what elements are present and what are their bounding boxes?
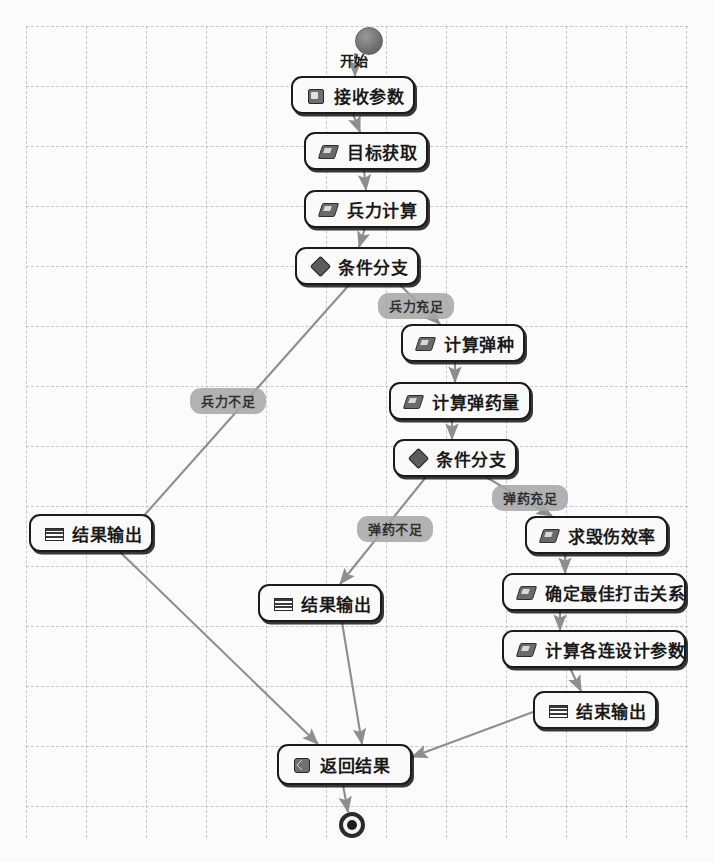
gear-icon — [517, 583, 536, 602]
flow-node-label: 计算弹药量 — [432, 389, 520, 414]
diamond-icon — [408, 449, 427, 468]
grid-line-vertical — [506, 26, 507, 838]
gear-icon — [319, 200, 338, 219]
end-node[interactable] — [339, 812, 365, 838]
grid-line-horizontal — [26, 686, 688, 687]
grid-line-horizontal — [26, 386, 688, 387]
flow-node-label: 条件分支 — [436, 446, 506, 471]
grid-line-horizontal — [26, 326, 688, 327]
grid-line-vertical — [206, 26, 207, 838]
gear-icon — [404, 392, 423, 411]
edge-label-e_l1: 兵力充足 — [378, 293, 454, 319]
edge-label-e_l2: 兵力不足 — [190, 388, 266, 414]
grid-line-horizontal — [26, 626, 688, 627]
edge-n10-to-n14 — [342, 622, 362, 744]
edge-layer — [0, 0, 714, 862]
flow-node-label: 求毁伤效率 — [568, 523, 656, 548]
flow-node-n5[interactable]: 计算弹种 — [401, 324, 525, 362]
edge-n2-to-n3 — [364, 170, 366, 190]
flow-node-n12[interactable]: 计算各连设计参数 — [502, 630, 686, 668]
grid-line-horizontal — [26, 446, 688, 447]
flow-node-label: 条件分支 — [338, 254, 408, 279]
flow-node-label: 确定最佳打击关系 — [545, 580, 685, 605]
flow-node-n9[interactable]: 求毁伤效率 — [525, 516, 668, 554]
flowchart-canvas: 开始 接收参数目标获取兵力计算条件分支计算弹种计算弹药量条件分支结果输出求毁伤效… — [0, 0, 714, 862]
edge-n14-to-end — [343, 785, 348, 812]
grid-line-horizontal — [26, 566, 688, 567]
flow-node-label: 结束输出 — [576, 698, 646, 723]
return-icon — [292, 755, 311, 774]
grid-line-vertical — [86, 26, 87, 838]
gear-icon — [416, 334, 435, 353]
edge-label-e_l4: 弹药不足 — [357, 516, 433, 542]
flow-node-label: 计算弹种 — [444, 331, 514, 356]
grid-line-vertical — [266, 26, 267, 838]
flow-node-label: 结果输出 — [72, 521, 142, 546]
edge-n12-to-n13 — [570, 668, 581, 691]
grid-line-vertical — [686, 26, 687, 838]
edge-n8-to-n14 — [120, 552, 318, 744]
flow-node-n11[interactable]: 确定最佳打击关系 — [502, 573, 686, 611]
flow-node-n6[interactable]: 计算弹药量 — [389, 382, 531, 420]
gear-icon — [517, 640, 536, 659]
edge-n3-to-n4 — [359, 228, 365, 247]
output-list-icon — [44, 524, 63, 543]
grid-line-horizontal — [26, 506, 688, 507]
flow-node-n2[interactable]: 目标获取 — [304, 132, 428, 170]
flow-node-label: 兵力计算 — [347, 197, 417, 222]
flow-node-n1[interactable]: 接收参数 — [291, 76, 415, 114]
flow-node-label: 计算各连设计参数 — [545, 637, 685, 662]
flow-node-n8[interactable]: 结果输出 — [29, 514, 153, 552]
flow-node-label: 结果输出 — [301, 591, 371, 616]
gear-icon — [319, 142, 338, 161]
receive-params-icon — [306, 86, 325, 105]
flow-node-n13[interactable]: 结束输出 — [533, 691, 657, 729]
grid-line-vertical — [146, 26, 147, 838]
gear-icon — [540, 526, 559, 545]
edge-n1-to-n2 — [353, 114, 360, 132]
edge-n13-to-n14 — [412, 712, 533, 757]
edge-label-e_l3: 弹药充足 — [492, 485, 568, 511]
grid-line-vertical — [26, 26, 27, 838]
grid-line-horizontal — [26, 26, 688, 27]
start-node-label: 开始 — [340, 50, 368, 70]
flow-node-n10[interactable]: 结果输出 — [258, 584, 382, 622]
flow-node-n14[interactable]: 返回结果 — [277, 744, 412, 785]
flow-node-n7[interactable]: 条件分支 — [393, 439, 517, 477]
grid-line-vertical — [446, 26, 447, 838]
flow-node-label: 目标获取 — [347, 139, 417, 164]
diamond-icon — [310, 257, 329, 276]
output-list-icon — [548, 701, 567, 720]
flow-node-label: 接收参数 — [334, 83, 404, 108]
flow-node-label: 返回结果 — [320, 752, 390, 777]
output-list-icon — [273, 594, 292, 613]
flow-node-n3[interactable]: 兵力计算 — [304, 190, 428, 228]
flow-node-n4[interactable]: 条件分支 — [295, 247, 419, 285]
grid-line-horizontal — [26, 806, 688, 807]
